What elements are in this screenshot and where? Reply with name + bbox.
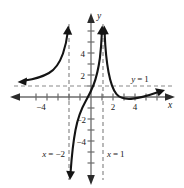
y-tick-label-4: 4 xyxy=(81,49,86,59)
curve-right-branch xyxy=(105,33,157,99)
curve-left-branch-upper-arrowhead xyxy=(63,26,72,35)
x-tick-label-4: 4 xyxy=(133,102,138,112)
axis-layer xyxy=(10,13,175,185)
y-tick-label-minus-2: −2 xyxy=(76,115,86,125)
ha-eq: = xyxy=(137,74,142,84)
y-axis-label: y xyxy=(96,11,102,21)
y-axis-top-arrowhead xyxy=(87,13,95,23)
ha-var: y xyxy=(130,74,135,84)
curve-left-branch-left-arrowhead xyxy=(18,77,28,85)
y-tick-label-minus-4: −4 xyxy=(76,137,86,147)
vaR-val: 1 xyxy=(120,149,125,159)
rational-function-graph-figure: −4 2 4 4 2 −2 −4 x y x=−2 x=1 y=1 xyxy=(0,0,184,188)
y-axis-bottom-arrowhead xyxy=(87,175,95,185)
curve-left-branch xyxy=(25,33,68,81)
vaL-var: x xyxy=(41,149,46,159)
vaL-val: −2 xyxy=(55,149,65,159)
ha-val: 1 xyxy=(144,74,149,84)
vertical-asymptote-right-label: x=1 xyxy=(106,149,125,159)
horizontal-asymptote-label: y=1 xyxy=(130,74,149,84)
x-tick-label-minus-4: −4 xyxy=(36,102,46,112)
vaL-eq: = xyxy=(48,149,53,159)
vertical-asymptote-left-label: x=−2 xyxy=(41,149,65,159)
curve-middle-branch-lower-arrowhead xyxy=(66,171,75,180)
curve-middle-branch xyxy=(71,34,102,173)
vaR-eq: = xyxy=(113,149,118,159)
x-tick-label-2: 2 xyxy=(111,102,116,112)
y-tick-label-2: 2 xyxy=(81,71,86,81)
vaR-var: x xyxy=(106,149,111,159)
x-axis-left-arrowhead xyxy=(10,93,20,101)
x-axis-label: x xyxy=(167,100,173,110)
